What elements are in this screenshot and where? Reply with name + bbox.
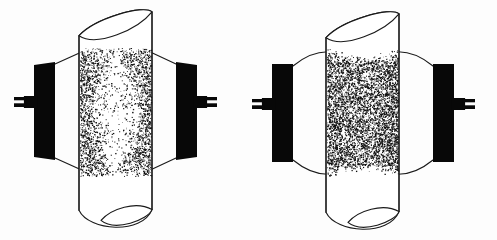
particle [396,156,397,157]
particle [140,113,141,114]
particle [94,84,95,85]
particle [84,109,85,110]
particle [82,55,83,56]
particle [378,127,379,128]
particle [146,134,147,135]
particle [108,59,109,60]
particle [109,165,110,166]
particle [388,77,389,78]
particle [335,57,336,58]
particle [105,92,106,93]
particle [364,120,365,121]
particle [142,58,143,59]
particle [360,166,361,167]
particle [345,112,346,113]
particle [95,77,96,78]
particle [340,152,341,153]
particle [148,95,149,96]
particle [136,153,137,154]
particle [393,99,394,100]
particle [138,105,139,106]
particle [100,51,101,52]
particle [357,136,358,137]
particle [379,74,380,75]
particle [354,146,355,147]
particle [381,114,382,115]
particle [91,115,92,116]
particle [374,63,375,64]
particle [148,109,149,110]
particle [389,145,390,146]
particle [110,95,111,96]
particle [345,128,346,129]
particle [355,71,356,72]
particle [375,130,376,131]
particle [362,156,363,157]
particle [146,63,147,64]
particle [394,160,395,161]
particle [386,157,387,158]
particle [334,121,335,122]
particle [94,81,95,82]
particle [369,123,370,124]
particle [330,139,331,140]
particle [135,80,136,81]
particle [148,155,149,156]
particle [390,129,391,130]
particle [387,120,388,121]
particle [366,143,367,144]
particle [361,146,362,147]
particle [150,67,151,68]
particle [83,116,84,117]
particle [396,154,397,155]
particle [84,117,85,118]
particle [125,64,126,65]
particle [379,68,380,69]
particle [332,122,333,123]
particle [396,59,397,60]
particle [100,163,101,164]
particle [339,98,340,99]
particle [356,96,357,97]
particle [386,95,387,96]
particle [132,167,133,168]
particle [81,149,82,150]
particle [368,111,369,112]
particle [339,137,340,138]
particle [83,107,84,108]
lead-segment [252,99,264,102]
particle [97,152,98,153]
particle [338,129,339,130]
particle [327,99,328,100]
particle [365,96,366,97]
particle [146,119,147,120]
particle [333,88,334,89]
particle [130,142,131,143]
particle [331,157,332,158]
particle [149,113,150,114]
particle [392,73,393,74]
particle [96,145,97,146]
particle [359,82,360,83]
particle [143,67,144,68]
particle [90,145,91,146]
particle [378,165,379,166]
particle [334,157,335,158]
particle [100,169,101,170]
particle [344,79,345,80]
particle [396,150,397,151]
particle [345,120,346,121]
particle [134,158,135,159]
particle [123,170,124,171]
particle [338,100,339,101]
particle [358,95,359,96]
particle [393,152,394,153]
particle [350,134,351,135]
particle [340,89,341,90]
particle [331,156,332,157]
particle [385,162,386,163]
particle [367,156,368,157]
particle [362,139,363,140]
particle [146,120,147,121]
particle [84,83,85,84]
